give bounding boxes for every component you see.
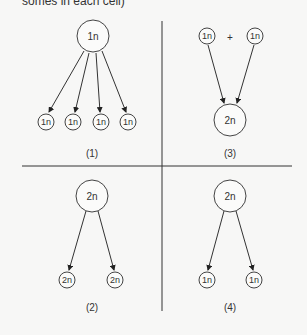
svg-text:2n: 2n [86,191,97,202]
arrow [237,45,254,103]
cell-node-target: 1n [120,114,136,130]
svg-text:2n: 2n [224,115,235,126]
cell-division-diagram: 1n 1n 1n 1n 1n (1) 1n + 1n [0,0,307,335]
panel-1: 1n 1n 1n 1n 1n (1) [38,20,136,159]
cell-node-source: 1n [247,28,263,44]
panel-label: (3) [224,148,236,159]
plus-operator: + [227,32,233,43]
svg-text:2n: 2n [62,275,72,285]
cell-node-source: 2n [214,180,246,212]
svg-text:1n: 1n [250,31,260,41]
cell-node-target: 1n [93,114,109,130]
arrow [49,51,84,112]
cell-node-source: 1n [77,20,109,52]
svg-text:1n: 1n [68,117,78,127]
panel-label: (2) [86,302,98,313]
cell-node-target: 1n [246,272,262,288]
svg-text:1n: 1n [202,31,212,41]
panel-2: 2n 2n 2n (2) [59,180,123,313]
cell-node-target: 1n [199,272,215,288]
arrow [69,211,86,270]
svg-text:1n: 1n [202,275,212,285]
panel-label: (1) [86,148,98,159]
cell-node-target: 2n [59,272,75,288]
panel-3: 1n + 1n 2n (3) [199,28,263,159]
arrow [236,211,253,270]
svg-text:1n: 1n [249,275,259,285]
cell-node-source: 1n [199,28,215,44]
cell-node-source: 2n [76,180,108,212]
svg-text:1n: 1n [87,31,98,42]
arrow [102,51,126,112]
cell-node-target: 2n [214,104,246,136]
svg-text:1n: 1n [41,117,51,127]
svg-text:1n: 1n [123,117,133,127]
arrow [98,211,114,270]
panel-4: 2n 1n 1n (4) [199,180,262,313]
cell-node-target: 1n [38,114,54,130]
svg-text:1n: 1n [96,117,106,127]
arrow [208,45,224,103]
cell-node-target: 2n [107,272,123,288]
arrow [96,53,100,112]
cell-node-target: 1n [65,114,81,130]
arrow [208,211,224,270]
panel-label: (4) [224,302,236,313]
arrow [75,53,89,112]
svg-text:2n: 2n [224,191,235,202]
svg-text:2n: 2n [110,275,120,285]
